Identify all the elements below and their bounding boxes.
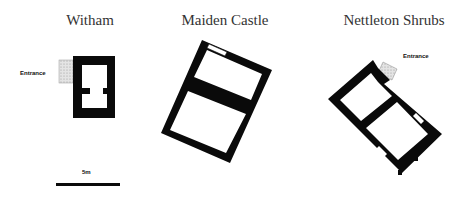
witham-title: Witham: [66, 12, 114, 29]
nettleton-shrubs-title: Nettleton Shrubs: [343, 12, 444, 29]
scale-bar-label: 5m: [82, 169, 91, 175]
witham-entrance-label: Entrance: [20, 70, 46, 76]
nettleton-shrubs-plan: [328, 60, 442, 175]
nettleton-entrance-label: Entrance: [403, 53, 429, 59]
maiden-castle-plan: [161, 40, 272, 163]
plans-drawing: [0, 0, 465, 198]
maiden-castle-title: Maiden Castle: [181, 12, 268, 29]
scale-bar: [56, 183, 120, 186]
witham-plan: [56, 56, 120, 186]
witham-entrance-area: [59, 60, 73, 83]
floor-plan-figure: Witham Maiden Castle Nettleton Shrubs En…: [0, 0, 465, 198]
